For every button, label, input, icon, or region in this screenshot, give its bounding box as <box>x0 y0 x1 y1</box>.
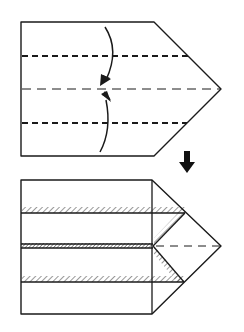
step-1-shape <box>21 22 221 156</box>
step-2-shape <box>21 180 221 314</box>
upper-hatch-band <box>22 207 185 213</box>
upper-flap-diagonal <box>153 213 185 246</box>
lower-hatch-band <box>22 276 184 282</box>
origami-diagram <box>0 0 244 332</box>
fold-arrow-bottom-icon <box>100 91 111 152</box>
down-arrow-icon <box>179 151 195 173</box>
